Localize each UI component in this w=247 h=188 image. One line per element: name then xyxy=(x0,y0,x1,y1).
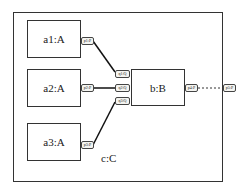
part-a3-label: a3:A xyxy=(28,136,80,148)
port-p4[interactable]: p4:P xyxy=(185,84,198,92)
part-b[interactable]: b:B xyxy=(131,69,185,106)
part-a1[interactable]: a1:A xyxy=(27,20,81,58)
container-label: c:C xyxy=(101,152,116,164)
port-p2[interactable]: p2:P xyxy=(81,84,94,92)
port-q1[interactable]: q1:Q xyxy=(115,70,130,78)
port-q2[interactable]: q2:Q xyxy=(115,84,130,92)
port-p5[interactable]: p5:P xyxy=(223,84,236,92)
part-a1-label: a1:A xyxy=(28,33,80,45)
part-b-label: b:B xyxy=(132,82,184,94)
part-a3[interactable]: a3:A xyxy=(27,123,81,161)
port-q3[interactable]: q3:Q xyxy=(115,97,130,105)
part-a2-label: a2:A xyxy=(28,82,80,94)
port-p3[interactable]: p3:P xyxy=(81,141,94,149)
port-p1[interactable]: p1:P xyxy=(81,37,94,45)
part-a2[interactable]: a2:A xyxy=(27,69,81,107)
